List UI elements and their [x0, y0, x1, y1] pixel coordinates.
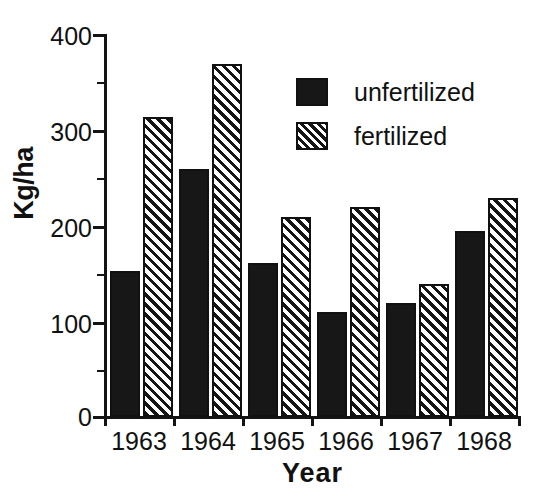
bar-1964-unfertilized — [179, 169, 209, 417]
bar-chart: Kg/ha 400 300 200 100 0 1963196419651966… — [0, 0, 539, 503]
legend-swatch-unfertilized — [296, 78, 328, 106]
bar-1965-unfertilized — [248, 263, 278, 417]
x-tick-4 — [380, 416, 383, 426]
x-tick-6 — [518, 416, 521, 426]
y-tick-minor-250 — [97, 178, 105, 180]
x-axis-title: Year — [104, 458, 521, 489]
y-tick-label-200: 200 — [34, 216, 92, 241]
legend-item-fertilized: fertilized — [296, 116, 532, 156]
chart-legend: unfertilized fertilized — [296, 72, 532, 160]
x-tick-label-1964: 1964 — [171, 426, 245, 456]
y-tick-minor-150 — [97, 274, 105, 276]
y-tick-200 — [93, 226, 105, 229]
bar-1963-fertilized — [143, 117, 173, 417]
x-tick-1 — [173, 416, 176, 426]
x-tick-label-1967: 1967 — [378, 426, 452, 456]
x-tick-label-1968: 1968 — [447, 426, 521, 456]
bar-1968-fertilized — [488, 198, 518, 417]
x-tick-5 — [449, 416, 452, 426]
bar-1968-unfertilized — [455, 231, 485, 417]
y-tick-minor-350 — [97, 82, 105, 84]
y-tick-label-0: 0 — [34, 405, 92, 430]
y-tick-label-400: 400 — [34, 24, 92, 49]
bar-1965-fertilized — [281, 217, 311, 417]
legend-label-unfertilized: unfertilized — [354, 80, 475, 105]
bar-1967-unfertilized — [386, 303, 416, 417]
bar-1966-fertilized — [350, 207, 380, 417]
bar-group-1963 — [107, 34, 176, 417]
y-tick-300 — [93, 130, 105, 133]
x-axis-tick-labels: 196319641965196619671968 — [104, 426, 524, 460]
y-tick-minor-50 — [97, 370, 105, 372]
x-tick-label-1963: 1963 — [102, 426, 176, 456]
y-tick-label-100: 100 — [34, 312, 92, 337]
y-tick-100 — [93, 322, 105, 325]
bar-1967-fertilized — [419, 284, 449, 417]
y-tick-label-300: 300 — [34, 120, 92, 145]
legend-item-unfertilized: unfertilized — [296, 72, 532, 112]
x-tick-2 — [242, 416, 245, 426]
x-tick-0 — [104, 416, 107, 426]
y-axis-tick-labels: 400 300 200 100 0 — [34, 0, 92, 503]
bar-1964-fertilized — [212, 64, 242, 417]
x-tick-label-1966: 1966 — [309, 426, 383, 456]
bar-1966-unfertilized — [317, 312, 347, 417]
legend-label-fertilized: fertilized — [354, 124, 447, 149]
x-tick-3 — [311, 416, 314, 426]
y-tick-400 — [93, 34, 105, 37]
bar-group-1964 — [176, 34, 245, 417]
bar-1963-unfertilized — [110, 271, 140, 417]
legend-swatch-fertilized — [296, 122, 328, 150]
x-tick-label-1965: 1965 — [240, 426, 314, 456]
